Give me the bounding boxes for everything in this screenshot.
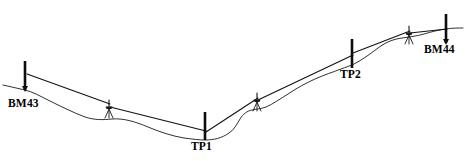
level-instrument-setup-2 (253, 93, 261, 111)
staff-rod-bm43 (22, 61, 28, 92)
backsight-line-bm43 (27, 74, 110, 104)
label-tp2: TP2 (340, 69, 361, 81)
foresight-line-tp2 (258, 55, 353, 100)
foresight-line-tp1 (110, 107, 206, 131)
backsight-line-tp2 (353, 31, 410, 53)
label-tp1: TP1 (191, 141, 212, 153)
level-instrument-setup-3 (405, 26, 413, 44)
ground-surface-line (3, 28, 463, 140)
differential-leveling-diagram: BM43 TP1 TP2 BM44 (0, 0, 467, 161)
label-bm43: BM43 (8, 98, 39, 110)
backsight-line-tp1 (206, 98, 258, 132)
leveling-profile-svg (0, 0, 467, 161)
label-bm44: BM44 (424, 44, 455, 56)
